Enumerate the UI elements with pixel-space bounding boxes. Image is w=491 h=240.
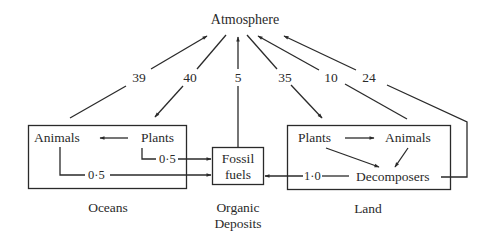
ocean-animals-to-fossil-line	[60, 147, 85, 175]
ocean-plants-to-fossil-line	[142, 148, 156, 159]
land-animals-label: Animals	[385, 131, 431, 145]
organic-caption: Organic	[216, 201, 259, 215]
flow-10-value: 10	[324, 71, 338, 85]
flow-24-value: 24	[362, 71, 376, 85]
atmosphere-label: Atmosphere	[211, 13, 279, 27]
land-animals-to-decomposers-arrow	[395, 148, 408, 167]
ocean-animals-fossil-value: 0·5	[88, 169, 105, 182]
deposits-caption: Deposits	[214, 217, 261, 231]
flow-39-arrow	[151, 36, 207, 69]
fossil-line1: Fossil	[222, 152, 254, 166]
land-plants-label: Plants	[298, 131, 331, 145]
land-plants-to-decomposers-arrow	[326, 148, 379, 167]
flow-39-value: 39	[132, 71, 146, 85]
oceans-label: Oceans	[88, 201, 128, 215]
flow-5-value: 5	[235, 71, 242, 85]
flow-10-arrow	[258, 36, 319, 70]
land-decomposers-label: Decomposers	[356, 170, 429, 184]
ocean-plants-fossil-value: 0·5	[159, 153, 176, 166]
flow-40-value: 40	[183, 71, 197, 85]
fossil-line2: fuels	[225, 168, 251, 182]
flow-35-value: 35	[278, 71, 292, 85]
ocean-plants-label: Plants	[141, 131, 174, 145]
decomposers-fossil-value: 1·0	[304, 170, 321, 183]
flow-35-arrow	[291, 85, 322, 118]
ocean-animals-label: Animals	[34, 131, 80, 145]
flow-40-line-upper	[197, 35, 226, 69]
flow-40-arrow	[155, 86, 183, 117]
flow-39-line-lower	[70, 86, 126, 118]
land-label: Land	[354, 202, 382, 216]
flow-35-line-upper	[247, 35, 277, 69]
flow-24-arrow	[284, 36, 356, 70]
